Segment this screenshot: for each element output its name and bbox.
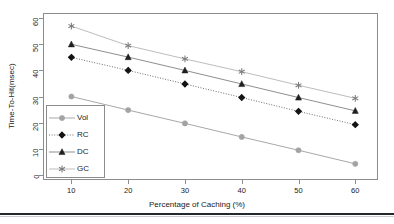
x-tick-mark xyxy=(71,180,72,184)
legend-marker-asterisk-icon xyxy=(47,160,77,178)
bottom-divider-shadow xyxy=(0,216,394,217)
y-tick-label: 60 xyxy=(32,18,41,27)
series-dc xyxy=(68,41,358,113)
chart-legend: VolRCDCGC xyxy=(46,105,105,178)
legend-label: RC xyxy=(77,131,89,139)
bottom-divider xyxy=(0,213,394,215)
legend-item-gc[interactable]: GC xyxy=(47,160,104,178)
x-tick-label: 40 xyxy=(237,186,246,195)
y-tick-label: 20 xyxy=(32,122,41,131)
series-gc xyxy=(68,23,358,102)
legend-item-dc[interactable]: DC xyxy=(47,143,104,161)
x-tick-label: 50 xyxy=(294,186,303,195)
y-tick-label: 0 xyxy=(32,174,41,178)
x-tick-label: 20 xyxy=(124,186,133,195)
y-tick-label: 40 xyxy=(32,70,41,79)
x-tick-mark xyxy=(185,180,186,184)
series-vol xyxy=(69,94,358,167)
x-tick-mark xyxy=(242,180,243,184)
x-tick-label: 30 xyxy=(181,186,190,195)
x-tick-mark xyxy=(355,180,356,184)
legend-marker-circle-icon xyxy=(47,109,77,127)
legend-label: Vol xyxy=(77,114,88,122)
chart-figure: 1020304050600102030405060 Percentage of … xyxy=(0,0,394,224)
legend-item-vol[interactable]: Vol xyxy=(47,109,104,127)
x-tick-label: 60 xyxy=(351,186,360,195)
legend-marker-diamond-icon xyxy=(47,126,77,144)
x-tick-label: 10 xyxy=(67,186,76,195)
legend-item-rc[interactable]: RC xyxy=(47,126,104,144)
x-tick-mark xyxy=(128,180,129,184)
y-axis-label-text: Time-To-Hit(msec) xyxy=(7,63,16,128)
legend-label: GC xyxy=(77,165,89,173)
legend-label: DC xyxy=(77,148,89,156)
y-tick-label: 10 xyxy=(32,148,41,157)
y-tick-label: 50 xyxy=(32,44,41,53)
x-axis-label: Percentage of Caching (%) xyxy=(0,200,394,209)
x-tick-mark xyxy=(299,180,300,184)
y-tick-label: 30 xyxy=(32,96,41,105)
legend-marker-triangle-icon xyxy=(47,143,77,161)
